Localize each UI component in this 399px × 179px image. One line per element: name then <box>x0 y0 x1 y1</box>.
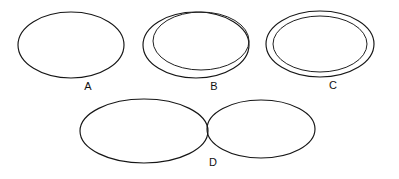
figure-background <box>0 0 399 179</box>
ellipse-diagram-canvas: A B C D <box>0 0 399 179</box>
panel-b-label: B <box>210 80 217 92</box>
figure-root: A B C D <box>0 0 399 179</box>
panel-a-label: A <box>84 80 92 92</box>
panel-d-label: D <box>209 156 217 168</box>
panel-c-label: C <box>329 79 337 91</box>
